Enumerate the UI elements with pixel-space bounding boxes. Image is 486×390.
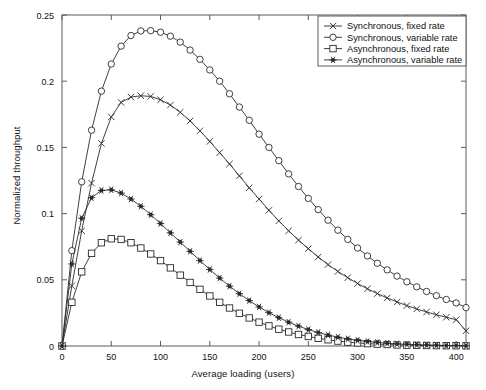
x-tick-label: 200 — [252, 352, 267, 362]
chart-legend: Synchronous, fixed rateSynchronous, vari… — [318, 16, 466, 66]
y-tick-label: 0 — [49, 342, 54, 352]
x-tick-label: 50 — [106, 352, 116, 362]
x-tick-label: 150 — [202, 352, 217, 362]
y-tick-label: 0.15 — [36, 143, 54, 153]
x-tick-label: 0 — [59, 352, 64, 362]
chart-canvas: 050100150200250300350400 00.050.10.150.2… — [0, 0, 486, 390]
legend-label-2: Asynchronous, fixed rate — [347, 44, 449, 54]
legend-label-3: Asynchronous, variable rate — [347, 55, 462, 65]
legend-label-0: Synchronous, fixed rate — [347, 21, 445, 31]
x-tick-label: 100 — [153, 352, 168, 362]
x-tick-label: 250 — [301, 352, 316, 362]
y-tick-label: 0.25 — [36, 11, 54, 21]
legend-label-1: Synchronous, variable rate — [347, 33, 458, 43]
x-axis-label: Average loading (users) — [0, 368, 486, 379]
y-axis-label: Normalized throughput — [11, 86, 22, 266]
y-tick-label: 0.05 — [36, 275, 54, 285]
x-tick-label: 400 — [449, 352, 464, 362]
x-tick-label: 350 — [399, 352, 414, 362]
y-tick-label: 0.2 — [41, 77, 54, 87]
y-tick-label: 0.1 — [41, 209, 54, 219]
x-tick-label: 300 — [350, 352, 365, 362]
